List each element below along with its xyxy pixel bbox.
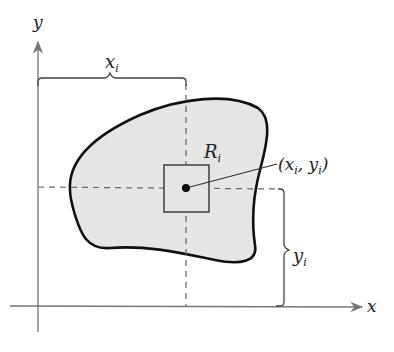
xi-label: xi [105, 51, 119, 75]
sample-point [182, 184, 190, 192]
x-axis [10, 306, 362, 307]
region-diagram: y x xi yi Ri (xi, yi) [0, 0, 394, 352]
xi-brace [38, 73, 186, 86]
diagram-canvas: y x xi yi Ri (xi, yi) [0, 0, 394, 352]
yi-brace [276, 189, 289, 306]
point-label: (xi, yi) [278, 154, 328, 177]
yi-label: yi [292, 245, 307, 269]
y-axis-label: y [32, 12, 43, 32]
x-axis-label: x [367, 296, 377, 316]
